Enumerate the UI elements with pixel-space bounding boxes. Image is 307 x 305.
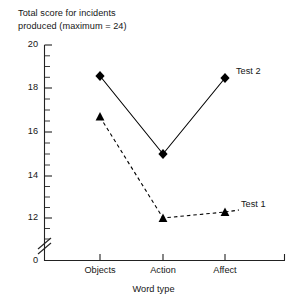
series-line-test-2 (100, 76, 225, 154)
chart-figure: Total score for incidentsproduced (maxim… (0, 0, 307, 305)
y-tick-label-16: 16 (12, 126, 38, 136)
y-tick-label-12: 12 (12, 212, 38, 222)
y-tick-label-18: 18 (12, 82, 38, 92)
x-ticks (100, 254, 285, 261)
y-tick-label-0: 0 (12, 255, 38, 265)
x-tick-label-objects: Objects (65, 265, 135, 275)
y-major-ticks (45, 45, 53, 218)
series-label-test-2: Test 2 (236, 66, 261, 76)
x-axis-title: Word type (0, 283, 307, 296)
y-minor-ticks (45, 56, 51, 239)
series-markers-test-2 (95, 71, 229, 159)
series-label-test-1: Test 1 (241, 199, 266, 209)
series-markers-test-1 (96, 112, 230, 222)
y-tick-label-14: 14 (12, 170, 38, 180)
y-tick-label-20: 20 (12, 39, 38, 49)
x-tick-label-affect: Affect (190, 265, 260, 275)
data-point-test1-action (159, 214, 168, 223)
plot-area (0, 0, 307, 305)
x-tick-label-action: Action (128, 265, 198, 275)
data-point-test1-objects (96, 112, 105, 121)
series-line-test-1 (100, 117, 225, 218)
